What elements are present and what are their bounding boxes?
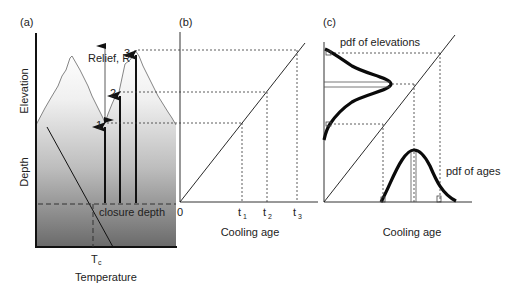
panel-c: (c) pdf of elevations pdf of ages Coolin… <box>323 16 501 238</box>
diagram-canvas: (a) Relief, R 1 2 3 closure depth Elevat… <box>0 0 511 298</box>
t2-label: t <box>263 206 266 218</box>
elevation-axis-label: Elevation <box>18 68 30 113</box>
pdf-ages-label: pdf of ages <box>446 165 501 177</box>
pdf-elevations-label: pdf of elevations <box>340 36 421 48</box>
tc-subscript: c <box>98 259 102 266</box>
panel-b: (b) 0 t 1 t 2 t 3 Cooling age <box>177 16 318 238</box>
point-3-label: 3 <box>124 47 130 59</box>
t1-subscript: 1 <box>243 213 247 220</box>
pdf-elevations-curve <box>324 49 391 140</box>
t3-label: t <box>293 206 296 218</box>
cooling-age-label-c: Cooling age <box>383 226 442 238</box>
age-elevation-line-b <box>180 43 305 202</box>
panel-a: (a) Relief, R 1 2 3 closure depth Elevat… <box>18 16 177 283</box>
origin-label: 0 <box>177 206 183 218</box>
tc-label: T <box>91 253 98 265</box>
point-2-label: 2 <box>110 87 116 99</box>
t1-label: t <box>238 206 241 218</box>
temperature-axis-label: Temperature <box>75 271 137 283</box>
pdf-ages-curve <box>381 150 456 202</box>
panel-a-label: (a) <box>20 16 33 28</box>
t2-subscript: 2 <box>268 213 272 220</box>
cooling-age-label-b: Cooling age <box>221 226 280 238</box>
depth-axis-label: Depth <box>18 157 30 186</box>
closure-depth-label: closure depth <box>99 206 165 218</box>
panel-c-label: (c) <box>323 16 336 28</box>
point-1-label: 1 <box>96 119 102 131</box>
panel-b-label: (b) <box>179 16 192 28</box>
t3-subscript: 3 <box>298 213 302 220</box>
